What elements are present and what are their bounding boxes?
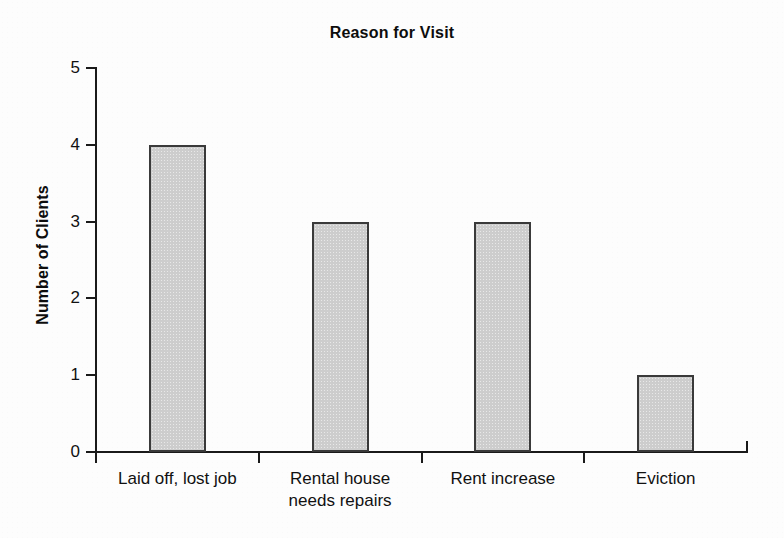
y-axis-tick <box>86 67 96 69</box>
x-axis-category-label-line: needs repairs <box>259 490 422 512</box>
bar <box>637 375 694 452</box>
y-axis-label: Number of Clients <box>34 155 52 355</box>
x-axis-tick <box>421 452 423 463</box>
y-axis-tick-label: 3 <box>46 213 80 230</box>
x-axis-category-label-line: Rental house <box>259 468 422 490</box>
x-axis-category-label-line: Rent increase <box>422 468 585 490</box>
bar <box>312 222 369 452</box>
y-axis-tick-label: 1 <box>46 366 80 383</box>
x-axis-tick <box>583 452 585 463</box>
x-axis-category-label: Rental houseneeds repairs <box>259 468 422 512</box>
plot-area <box>96 68 747 452</box>
y-axis-tick <box>86 297 96 299</box>
y-axis-tick-label: 4 <box>46 136 80 153</box>
y-axis-tick-label: 5 <box>46 59 80 76</box>
bar-chart: Reason for Visit Number of Clients 01234… <box>0 0 784 538</box>
y-axis-tick-label: 0 <box>46 443 80 460</box>
y-axis-tick-label: 2 <box>46 289 80 306</box>
chart-title: Reason for Visit <box>0 24 784 42</box>
x-axis-tick <box>258 452 260 463</box>
x-axis-category-label-line: Eviction <box>584 468 747 490</box>
bar <box>149 145 206 452</box>
x-axis-category-label-line: Laid off, lost job <box>96 468 259 490</box>
y-axis-tick <box>86 374 96 376</box>
bar <box>474 222 531 452</box>
x-axis-tick <box>95 452 97 463</box>
x-axis-category-label: Rent increase <box>422 468 585 490</box>
x-axis-category-label: Laid off, lost job <box>96 468 259 490</box>
x-axis-category-label: Eviction <box>584 468 747 490</box>
y-axis-tick <box>86 221 96 223</box>
y-axis-tick <box>86 144 96 146</box>
